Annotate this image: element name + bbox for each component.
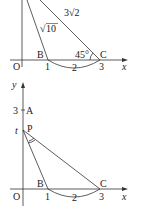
label-x-top: x (121, 61, 127, 72)
tick-2-top: 2 (72, 62, 77, 73)
tick-t: t (15, 125, 18, 136)
tick-3-bottom: 3 (99, 191, 104, 202)
label-3root2: 3√2 (64, 7, 80, 18)
label-b-top: B (37, 49, 44, 60)
label-45deg: 45° (75, 49, 89, 60)
top-labels: 3√2 √ 10 B C 45° O 1 2 3 x (13, 7, 127, 73)
label-c-top: C (100, 49, 107, 60)
label-c-bottom: C (100, 178, 107, 189)
label-root10-num: 10 (46, 23, 56, 34)
tick-y3: 3 (13, 105, 18, 116)
segment-pb (23, 130, 48, 189)
segment-pc (23, 130, 100, 189)
bottom-y-arrow-icon (21, 82, 25, 88)
label-y-bottom: y (11, 79, 17, 90)
label-b-bottom: B (37, 178, 44, 189)
label-p: P (27, 123, 33, 134)
bottom-figure (10, 82, 128, 206)
label-origin-bottom: O (13, 191, 20, 202)
tick-1-top: 1 (45, 61, 50, 72)
tick-3-top: 3 (99, 61, 104, 72)
label-a: A (26, 105, 34, 116)
angle-c-arc (90, 53, 93, 60)
tick-1-bottom: 1 (45, 191, 50, 202)
label-origin-top: O (13, 61, 20, 72)
label-x-bottom: x (121, 191, 127, 202)
angle-p-arc-outer (28, 140, 35, 143)
angle-p-arc-inner (29, 138, 34, 141)
tick-2-bottom: 2 (72, 192, 77, 203)
bottom-labels: y 3 A t P B C O 1 2 3 x (11, 79, 127, 203)
coordinate-diagram: 3√2 √ 10 B C 45° O 1 2 3 x y 3 A t P B C… (0, 0, 141, 208)
